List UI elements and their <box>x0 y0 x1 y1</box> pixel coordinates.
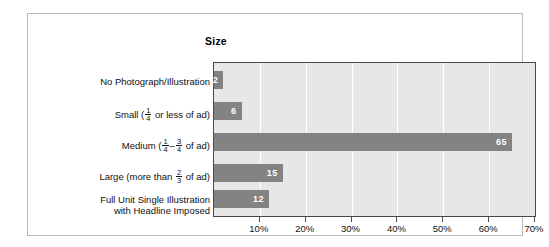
fraction-three-quarters: 34 <box>176 138 182 154</box>
fraction-two-thirds: 23 <box>176 169 182 185</box>
chart-figure: Size No Photograph/Illustration Small (1… <box>27 13 523 236</box>
bar-value-label: 2 <box>213 75 219 85</box>
category-label-line1: Full Unit Single Illustration <box>100 194 210 205</box>
category-label-suffix: or less of ad) <box>152 109 210 120</box>
axis-tick <box>305 217 306 222</box>
category-label-suffix: of ad) <box>183 171 210 182</box>
bar-value-label: 65 <box>496 137 507 147</box>
plot-area: 26651512 <box>213 62 536 217</box>
fraction-denominator: 4 <box>145 114 151 123</box>
bar-row: 2 <box>214 71 535 89</box>
fraction-numerator: 1 <box>145 107 151 115</box>
category-label-line2: with Headline Imposed <box>114 205 210 216</box>
category-label-small: Small (14 or less of ad) <box>35 107 210 123</box>
bar-row: 6 <box>214 102 535 120</box>
bar[interactable]: 2 <box>214 71 223 89</box>
fraction-denominator: 4 <box>176 145 182 154</box>
axis-tick-label-50%: 50% <box>422 223 462 234</box>
category-axis-labels: No Photograph/Illustration Small (14 or … <box>32 62 210 217</box>
category-label-full-unit: Full Unit Single Illustration with Headl… <box>35 194 210 216</box>
fraction-numerator: 1 <box>162 138 168 146</box>
category-label-large: Large (more than 23 of ad) <box>35 169 210 185</box>
fraction-one-quarter: 14 <box>162 138 168 154</box>
axis-tick <box>442 217 443 222</box>
axis-tick <box>534 217 535 222</box>
axis-tick-label-40%: 40% <box>376 223 416 234</box>
bar-value-label: 6 <box>231 106 237 116</box>
bar-row: 65 <box>214 133 535 151</box>
axis-tick <box>259 217 260 222</box>
fraction-denominator: 4 <box>162 145 168 154</box>
bar[interactable]: 65 <box>214 133 512 151</box>
chart-title: Size <box>156 35 276 47</box>
axis-tick-label-70%: 70% <box>514 223 549 234</box>
bar[interactable]: 6 <box>214 102 242 120</box>
bar[interactable]: 12 <box>214 190 269 208</box>
axis-tick <box>488 217 489 222</box>
axis-tick <box>351 217 352 222</box>
range-dash: – <box>170 140 175 151</box>
value-axis: 10%20%30%40%50%60%70% <box>213 217 537 241</box>
axis-tick-label-20%: 20% <box>285 223 325 234</box>
fraction-numerator: 2 <box>176 169 182 177</box>
category-label-no-photograph: No Photograph/Illustration <box>35 76 210 87</box>
category-label-medium: Medium (14–34 of ad) <box>35 138 210 154</box>
axis-tick <box>396 217 397 222</box>
bar-value-label: 15 <box>267 168 278 178</box>
bar[interactable]: 15 <box>214 164 283 182</box>
category-label-text: No Photograph/Illustration <box>100 76 210 87</box>
bar-row: 15 <box>214 164 535 182</box>
category-label-prefix: Large (more than <box>99 171 175 182</box>
category-label-prefix: Small ( <box>115 109 145 120</box>
category-label-suffix: of ad) <box>183 140 210 151</box>
bar-value-label: 12 <box>253 194 264 204</box>
bar-row: 12 <box>214 190 535 208</box>
fraction-numerator: 3 <box>176 138 182 146</box>
axis-tick-label-10%: 10% <box>239 223 279 234</box>
axis-tick-label-30%: 30% <box>331 223 371 234</box>
fraction-one-quarter: 14 <box>145 107 151 123</box>
axis-tick-label-60%: 60% <box>468 223 508 234</box>
category-label-prefix: Medium ( <box>122 140 162 151</box>
fraction-denominator: 3 <box>176 176 182 185</box>
